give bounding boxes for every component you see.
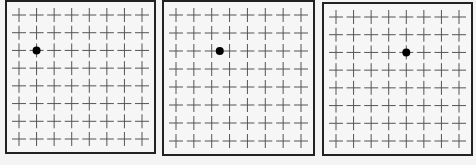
cross-marker (47, 97, 61, 111)
cross-marker (65, 43, 79, 57)
grid-panel-1 (5, 0, 156, 154)
cross-marker (258, 116, 272, 130)
cross-marker (417, 134, 431, 148)
cross-marker (82, 114, 96, 128)
grid-panel-3 (322, 2, 473, 156)
cross-marker (382, 99, 396, 113)
cross-marker (294, 62, 308, 76)
cross-marker (417, 116, 431, 130)
cross-marker (294, 116, 308, 130)
cross-marker (205, 8, 219, 22)
cross-marker (135, 79, 149, 93)
cross-marker (347, 116, 361, 130)
cross-marker (347, 81, 361, 95)
dot-marker (216, 47, 224, 55)
cross-marker (47, 8, 61, 22)
cross-marker (47, 43, 61, 57)
cross-marker (329, 63, 343, 77)
cross-marker (329, 45, 343, 59)
cross-marker (417, 81, 431, 95)
cross-marker (329, 10, 343, 24)
cross-marker (205, 134, 219, 148)
cross-marker (452, 63, 466, 77)
cross-marker (382, 134, 396, 148)
cross-marker (135, 43, 149, 57)
cross-marker (187, 80, 201, 94)
cross-marker (30, 132, 44, 146)
cross-marker (417, 10, 431, 24)
cross-marker (100, 43, 114, 57)
cross-marker (417, 99, 431, 113)
cross-marker (100, 97, 114, 111)
cross-marker (169, 26, 183, 40)
cross-marker (294, 8, 308, 22)
cross-marker (117, 26, 131, 40)
cross-marker (258, 8, 272, 22)
cross-marker (399, 99, 413, 113)
cross-marker (187, 8, 201, 22)
cross-marker (294, 98, 308, 112)
cross-marker (276, 26, 290, 40)
cross-marker (12, 8, 26, 22)
cross-marker (117, 61, 131, 75)
cross-marker (240, 26, 254, 40)
cross-marker (223, 26, 237, 40)
dot-marker (402, 48, 410, 56)
cross-marker (65, 61, 79, 75)
cross-marker (329, 81, 343, 95)
cross-marker (434, 63, 448, 77)
cross-marker (187, 44, 201, 58)
cross-marker (82, 79, 96, 93)
cross-marker (82, 132, 96, 146)
cross-marker (169, 62, 183, 76)
cross-marker (100, 61, 114, 75)
cross-marker (12, 132, 26, 146)
cross-marker (364, 99, 378, 113)
cross-marker (65, 26, 79, 40)
cross-marker (276, 80, 290, 94)
cross-marker (417, 45, 431, 59)
cross-marker (417, 28, 431, 42)
cross-marker (117, 132, 131, 146)
cross-marker (452, 116, 466, 130)
cross-marker (434, 99, 448, 113)
cross-marker (276, 8, 290, 22)
cross-marker (135, 114, 149, 128)
cross-marker (382, 28, 396, 42)
cross-marker (294, 44, 308, 58)
cross-marker (347, 63, 361, 77)
cross-marker (258, 134, 272, 148)
cross-marker (100, 8, 114, 22)
cross-marker (82, 61, 96, 75)
cross-marker (382, 10, 396, 24)
cross-marker (452, 134, 466, 148)
cross-marker (47, 132, 61, 146)
cross-marker (276, 98, 290, 112)
cross-marker (434, 45, 448, 59)
cross-marker (240, 98, 254, 112)
cross-marker (452, 28, 466, 42)
grid-panel-2 (162, 0, 315, 156)
cross-marker (187, 26, 201, 40)
cross-marker (187, 116, 201, 130)
cross-marker (276, 44, 290, 58)
cross-marker (294, 134, 308, 148)
cross-marker (240, 8, 254, 22)
cross-marker (12, 114, 26, 128)
cross-marker (223, 98, 237, 112)
cross-marker (294, 26, 308, 40)
cross-marker (364, 134, 378, 148)
cross-marker (12, 61, 26, 75)
cross-marker (258, 44, 272, 58)
cross-marker (329, 134, 343, 148)
cross-marker (452, 45, 466, 59)
cross-marker (187, 134, 201, 148)
cross-marker (47, 79, 61, 93)
cross-marker (258, 80, 272, 94)
cross-marker (30, 8, 44, 22)
cross-marker (452, 10, 466, 24)
cross-marker (117, 114, 131, 128)
cross-marker (347, 10, 361, 24)
cross-marker (382, 45, 396, 59)
cross-marker (240, 116, 254, 130)
